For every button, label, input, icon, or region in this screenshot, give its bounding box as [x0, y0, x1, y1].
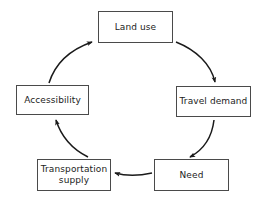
- arrow-transportation-supply-to-accessibility: [56, 120, 88, 157]
- node-land-use-label: Land use: [115, 22, 157, 33]
- arrow-need-to-transportation-supply: [115, 173, 152, 175]
- node-transportation-supply[interactable]: Transportation supply: [37, 159, 111, 191]
- node-land-use[interactable]: Land use: [98, 11, 173, 43]
- node-travel-demand-label: Travel demand: [180, 96, 248, 107]
- arrow-accessibility-to-land-use: [49, 42, 92, 83]
- node-accessibility-label: Accessibility: [24, 95, 81, 106]
- node-transportation-supply-label: Transportation supply: [41, 164, 107, 186]
- node-need[interactable]: Need: [154, 159, 229, 191]
- node-accessibility[interactable]: Accessibility: [16, 85, 89, 115]
- arrow-land-use-to-travel-demand: [176, 42, 215, 82]
- node-need-label: Need: [180, 170, 204, 181]
- arrow-travel-demand-to-need: [190, 120, 214, 157]
- cycle-diagram-canvas: Land use Travel demand Need Transportati…: [0, 0, 260, 204]
- node-travel-demand[interactable]: Travel demand: [176, 86, 251, 117]
